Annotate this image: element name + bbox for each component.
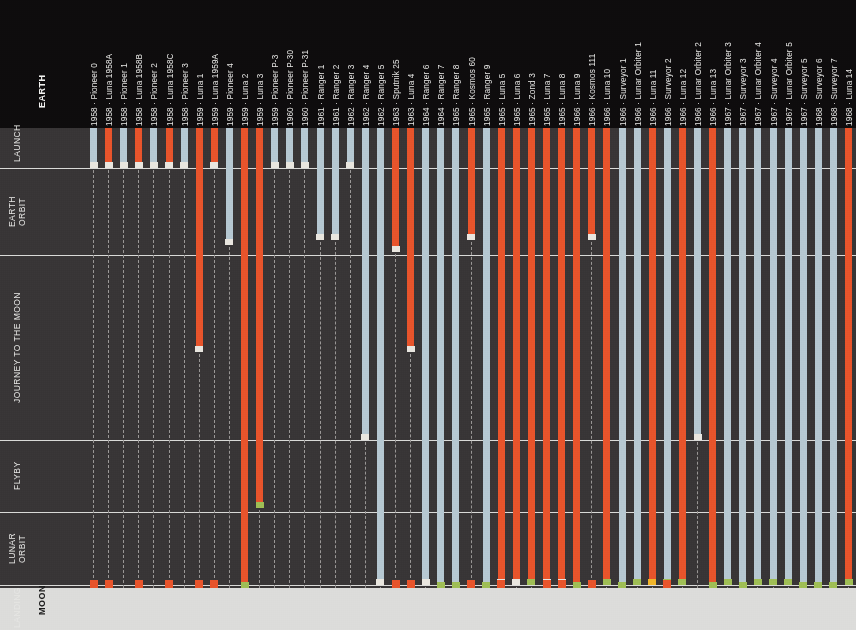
mission-bar[interactable] [709,128,716,582]
mission-bar[interactable] [634,128,641,579]
mission-column[interactable]: 1966 · Kosmos 111 [588,0,595,630]
mission-column[interactable]: 1966 · Luna 9 [573,0,580,630]
mission-bar[interactable] [347,128,354,162]
mission-column[interactable]: 1962 · Ranger 3 [347,0,354,630]
mission-bar[interactable] [377,128,384,579]
mission-column[interactable]: 1958 · Luna 1958A [105,0,112,630]
mission-bar[interactable] [830,128,837,582]
mission-bar[interactable] [407,128,414,346]
mission-column[interactable]: 1967 · Lunar Orbiter 3 [724,0,731,630]
mission-column[interactable]: 1965 · Luna 5 [498,0,505,630]
mission-bar[interactable] [573,128,580,582]
mission-bar[interactable] [105,128,112,162]
mission-column[interactable]: 1960 · Pioneer P-30 [286,0,293,630]
mission-column[interactable]: 1967 · Surveyor 4 [770,0,777,630]
mission-column[interactable]: 1959 · Luna 1 [196,0,203,630]
mission-column[interactable]: 1966 · Luna 11 [649,0,656,630]
mission-bar[interactable] [543,128,550,579]
mission-bar[interactable] [754,128,761,579]
mission-column[interactable]: 1959 · Luna 1959A [211,0,218,630]
mission-column[interactable]: 1961 · Ranger 1 [317,0,324,630]
mission-bar[interactable] [317,128,324,234]
mission-bar[interactable] [664,128,671,579]
mission-bar[interactable] [558,128,565,579]
mission-column[interactable]: 1963 · Luna 4 [407,0,414,630]
mission-bar[interactable] [241,128,248,582]
mission-bar[interactable] [679,128,686,579]
mission-bar[interactable] [301,128,308,162]
mission-column[interactable]: 1958 · Pioneer 3 [181,0,188,630]
mission-column[interactable]: 1958 · Pioneer 2 [150,0,157,630]
mission-bar[interactable] [90,128,97,162]
mission-bar[interactable] [422,128,429,579]
mission-column[interactable]: 1966 · Luna 13 [709,0,716,630]
mission-column[interactable]: 1962 · Ranger 4 [362,0,369,630]
mission-column[interactable]: 1961 · Ranger 2 [332,0,339,630]
mission-column[interactable]: 1967 · Surveyor 3 [739,0,746,630]
mission-column[interactable]: 1967 · Lunar Orbiter 5 [785,0,792,630]
mission-column[interactable]: 1965 · Ranger 8 [452,0,459,630]
mission-bar[interactable] [770,128,777,579]
mission-column[interactable]: 1966 · Luna 10 [603,0,610,630]
mission-column[interactable]: 1966 · Lunar Orbiter 1 [634,0,641,630]
mission-bar[interactable] [452,128,459,582]
mission-bar[interactable] [694,128,701,434]
mission-column[interactable]: 1964 · Ranger 6 [422,0,429,630]
mission-bar[interactable] [196,128,203,346]
mission-bar[interactable] [528,128,535,579]
mission-column[interactable]: 1968 · Luna 14 [845,0,852,630]
mission-column[interactable]: 1966 · Surveyor 1 [619,0,626,630]
mission-column[interactable]: 1958 · Pioneer 0 [90,0,97,630]
mission-column[interactable]: 1965 · Luna 7 [543,0,550,630]
mission-bar[interactable] [785,128,792,579]
mission-column[interactable]: 1959 · Pioneer 4 [226,0,233,630]
mission-bar[interactable] [468,128,475,234]
mission-bar[interactable] [226,128,233,239]
mission-column[interactable]: 1967 · Lunar Orbiter 4 [754,0,761,630]
mission-bar[interactable] [513,128,520,579]
mission-column[interactable]: 1967 · Surveyor 5 [800,0,807,630]
mission-column[interactable]: 1965 · Zond 3 [528,0,535,630]
mission-bar[interactable] [150,128,157,162]
mission-bar[interactable] [724,128,731,579]
mission-bar[interactable] [332,128,339,234]
mission-bar[interactable] [362,128,369,434]
mission-bar[interactable] [437,128,444,582]
mission-bar[interactable] [649,128,656,579]
mission-bar[interactable] [619,128,626,582]
mission-bar[interactable] [588,128,595,234]
mission-bar[interactable] [483,128,490,582]
mission-bar[interactable] [498,128,505,579]
mission-column[interactable]: 1959 · Pioneer P-3 [271,0,278,630]
mission-bar[interactable] [739,128,746,582]
mission-bar[interactable] [800,128,807,582]
mission-column[interactable]: 1966 · Lunar Orbiter 2 [694,0,701,630]
mission-bar[interactable] [845,128,852,579]
mission-bar[interactable] [271,128,278,162]
mission-bar[interactable] [135,128,142,162]
mission-column[interactable]: 1966 · Luna 12 [679,0,686,630]
mission-bar[interactable] [392,128,399,246]
mission-column[interactable]: 1965 · Ranger 9 [483,0,490,630]
mission-column[interactable]: 1965 · Luna 6 [513,0,520,630]
mission-bar[interactable] [166,128,173,162]
mission-column[interactable]: 1963 · Sputnik 25 [392,0,399,630]
mission-bar[interactable] [181,128,188,162]
mission-column[interactable]: 1964 · Ranger 7 [437,0,444,630]
mission-column[interactable]: 1966 · Surveyor 2 [664,0,671,630]
mission-column[interactable]: 1960 · Pioneer P-31 [301,0,308,630]
mission-column[interactable]: 1958 · Luna 1958C [166,0,173,630]
mission-bar[interactable] [286,128,293,162]
mission-bar[interactable] [120,128,127,162]
mission-bar[interactable] [211,128,218,162]
mission-column[interactable]: 1965 · Luna 8 [558,0,565,630]
mission-column[interactable]: 1968 · Surveyor 6 [815,0,822,630]
mission-column[interactable]: 1965 · Kosmos 60 [468,0,475,630]
mission-column[interactable]: 1962 · Ranger 5 [377,0,384,630]
mission-column[interactable]: 1968 · Surveyor 7 [830,0,837,630]
mission-bar[interactable] [815,128,822,582]
mission-bar[interactable] [603,128,610,579]
mission-column[interactable]: 1959 · Luna 2 [241,0,248,630]
mission-column[interactable]: 1959 · Luna 3 [256,0,263,630]
mission-column[interactable]: 1958 · Pioneer 1 [120,0,127,630]
